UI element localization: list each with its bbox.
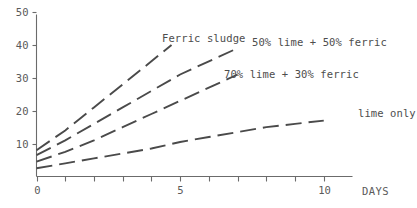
series-label: 50% lime + 50% ferric [252,36,387,48]
settling-curve-chart: 1020304050 0510 Ferric sludge50% lime + … [0,0,417,208]
x-axis-title: DAYS [362,185,389,197]
data-series-group [37,45,324,168]
x-tick-label: 5 [177,184,183,196]
series-line [37,45,172,150]
x-axis-ticks [38,177,325,182]
x-tick-label: 10 [318,184,331,196]
y-axis-ticks [33,13,37,145]
series-line [37,75,238,162]
y-tick-label: 20 [16,105,29,117]
y-axis-tick-labels: 1020304050 [16,6,29,150]
y-tick-label: 10 [16,138,29,150]
series-label: Ferric sludge [162,32,245,44]
chart-container: 1020304050 0510 Ferric sludge50% lime + … [0,0,417,208]
y-tick-label: 40 [16,39,29,51]
y-tick-label: 50 [16,6,29,18]
series-label: lime only [358,107,416,119]
x-tick-label: 0 [34,184,40,196]
series-label: 70% lime + 30% ferric [224,68,359,80]
series-line [37,48,238,155]
series-line [37,121,324,169]
series-annotations-group: Ferric sludge50% lime + 50% ferric70% li… [162,32,416,119]
x-axis-tick-labels: 0510 [34,184,330,196]
y-tick-label: 30 [16,72,29,84]
